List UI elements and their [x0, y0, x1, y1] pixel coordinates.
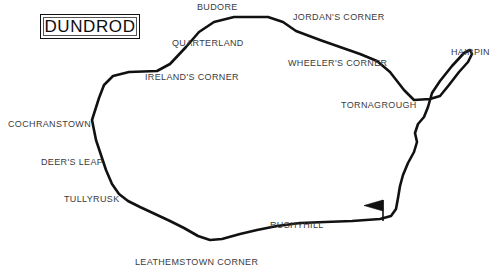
label-deers-leap: DEER'S LEAP	[41, 157, 103, 167]
label-cochranstown: COCHRANSTOWN	[8, 119, 91, 129]
label-budore: BUDORE	[197, 2, 238, 12]
label-rushyhill: RUSHYHILL	[270, 220, 324, 230]
label-leathemstown-corner: LEATHEMSTOWN CORNER	[135, 257, 258, 267]
label-hairpin: HAIRPIN	[451, 47, 490, 57]
label-quarterland: QUARTERLAND	[172, 38, 244, 48]
label-tullyrusk: TULLYRUSK	[64, 194, 120, 204]
dundrod-circuit-map: DUNDROD BUDORE JORDAN'S CORNER QUARTERLA…	[0, 0, 496, 275]
circuit-title-box: DUNDROD	[40, 14, 140, 39]
label-irelands-corner: IRELAND'S CORNER	[145, 72, 239, 82]
label-tornagrough: TORNAGROUGH	[341, 100, 417, 110]
label-wheelers-corner: WHEELER'S CORNER	[288, 58, 387, 68]
start-finish-flag-icon	[364, 200, 383, 211]
circuit-diagram	[0, 0, 496, 275]
track-outline-path	[92, 17, 472, 240]
label-jordans-corner: JORDAN'S CORNER	[293, 12, 384, 22]
page-title: DUNDROD	[44, 17, 135, 37]
